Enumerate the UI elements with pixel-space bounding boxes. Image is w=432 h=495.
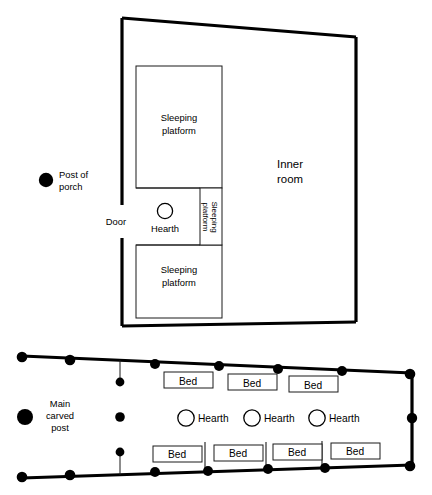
inner-room-label: Inner xyxy=(277,158,303,170)
sleeping-platform-vertical-label-group: Sleeping platform xyxy=(201,201,219,232)
lower-post-top-2 xyxy=(65,355,76,366)
upper-hearth-circle xyxy=(157,203,172,218)
sleeping-platform-bottom-label: Sleeping xyxy=(161,264,198,275)
main-carved-post-label-3: post xyxy=(51,422,69,433)
lower-post-bottom-5 xyxy=(263,464,273,474)
lower-post-interior-top xyxy=(116,378,125,387)
sleeping-platform-bottom-label-2: platform xyxy=(162,277,196,288)
lower-post-bottom-6 xyxy=(320,463,330,473)
post-of-porch-label: Post of xyxy=(59,169,89,180)
lower-hearth-circle-3 xyxy=(309,410,325,426)
bed-bottom-label-4: Bed xyxy=(346,446,364,457)
lower-post-right-middle xyxy=(407,413,417,423)
sleeping-platform-vertical-label: Sleeping xyxy=(210,201,219,232)
lower-hearth-label-1: Hearth xyxy=(198,413,229,424)
sleeping-platform-top-label: Sleeping xyxy=(161,112,198,123)
lower-wall-bottom xyxy=(22,465,412,478)
lower-plan-group: Bed Bed Bed Bed Bed Bed Bed Hearth Heart… xyxy=(17,352,417,483)
bed-top-label-1: Bed xyxy=(179,376,197,387)
bed-bottom-label-1: Bed xyxy=(168,449,186,460)
post-of-porch-dot xyxy=(39,173,53,187)
lower-post-top-5 xyxy=(273,364,283,374)
lower-hearth-circle-1 xyxy=(178,410,194,426)
main-carved-post-label-2: carved xyxy=(46,410,74,421)
door-label: Door xyxy=(106,216,126,227)
upper-wall-bottom xyxy=(122,322,356,326)
lower-post-interior-middle xyxy=(115,412,125,422)
lower-post-top-1 xyxy=(17,352,28,363)
bed-top-label-3: Bed xyxy=(304,380,322,391)
lower-hearth-label-2: Hearth xyxy=(264,413,295,424)
upper-wall-top xyxy=(122,18,356,37)
lower-hearth-label-3: Hearth xyxy=(329,413,360,424)
lower-post-bottom-4 xyxy=(203,466,213,476)
post-of-porch-label-2: porch xyxy=(59,181,82,192)
sleeping-platform-top-label-2: platform xyxy=(162,125,196,136)
upper-hearth-label: Hearth xyxy=(151,223,179,234)
lower-hearth-circle-2 xyxy=(244,410,260,426)
sleeping-platform-vertical-label-2: platform xyxy=(201,203,210,232)
bed-top-label-2: Bed xyxy=(243,378,261,389)
floor-plan-svg: Inner room Sleeping platform Sleeping pl… xyxy=(0,0,432,495)
main-carved-post-dot xyxy=(17,409,33,425)
lower-post-top-7 xyxy=(405,369,416,380)
lower-post-interior-bottom xyxy=(116,448,125,457)
lower-post-top-3 xyxy=(150,359,160,369)
figure-canvas: Inner room Sleeping platform Sleeping pl… xyxy=(0,0,432,495)
bed-bottom-label-3: Bed xyxy=(288,447,306,458)
lower-post-bottom-2 xyxy=(65,470,76,481)
inner-room-label-2: room xyxy=(277,173,303,185)
lower-post-bottom-1 xyxy=(17,472,28,483)
bed-bottom-label-2: Bed xyxy=(229,448,247,459)
lower-post-top-6 xyxy=(337,366,347,376)
lower-post-bottom-7 xyxy=(405,461,416,472)
lower-post-bottom-3 xyxy=(150,467,160,477)
upper-plan-group: Inner room Sleeping platform Sleeping pl… xyxy=(39,18,356,326)
main-carved-post-label-1: Main xyxy=(50,398,70,409)
lower-post-top-4 xyxy=(214,361,224,371)
